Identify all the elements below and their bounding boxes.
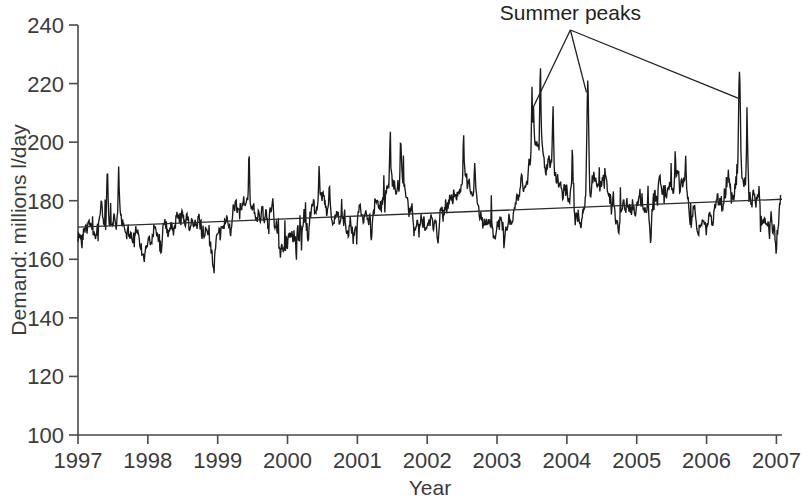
summer-peaks-leader-line (570, 30, 738, 98)
y-tick-label: 120 (27, 364, 64, 389)
y-tick-label: 100 (27, 423, 64, 448)
demand-series-line (78, 68, 781, 273)
y-tick-label: 160 (27, 247, 64, 272)
x-tick-label: 2005 (612, 448, 661, 473)
summer-peaks-leader-line (570, 30, 586, 92)
y-tick-label: 240 (27, 13, 64, 38)
x-tick-label: 2004 (542, 448, 591, 473)
x-tick-label: 2003 (473, 448, 522, 473)
x-tick-label: 2001 (333, 448, 382, 473)
chart-figure: 1001201401601802002202401997199819992000… (0, 0, 802, 501)
y-tick-label: 220 (27, 72, 64, 97)
summer-peaks-label: Summer peaks (500, 1, 641, 24)
x-tick-label: 2002 (403, 448, 452, 473)
x-tick-label: 2007 (752, 448, 801, 473)
y-axis-title: Demand: millions l/day (7, 124, 30, 336)
demand-time-series-chart: 1001201401601802002202401997199819992000… (0, 0, 802, 501)
y-tick-label: 140 (27, 306, 64, 331)
y-tick-label: 180 (27, 189, 64, 214)
y-tick-label: 200 (27, 130, 64, 155)
x-tick-label: 1997 (54, 448, 103, 473)
x-tick-label: 2000 (263, 448, 312, 473)
x-axis-title: Year (409, 476, 451, 499)
x-tick-label: 1998 (123, 448, 172, 473)
x-tick-label: 1999 (193, 448, 242, 473)
summer-peaks-leader-line (533, 30, 570, 107)
x-tick-label: 2006 (682, 448, 731, 473)
axis-lines (78, 25, 782, 435)
